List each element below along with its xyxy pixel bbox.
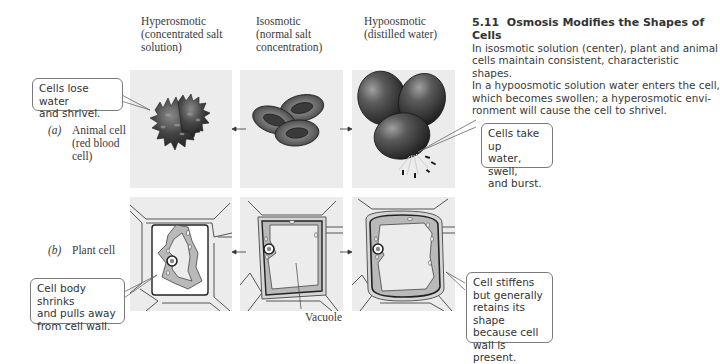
callout-cell-body-shrinks: Cell body shrinks and pulls away from ce… bbox=[30, 278, 125, 324]
callout-cells-shrivel: Cells lose water and shrivel. bbox=[32, 78, 123, 111]
arrow-right-icon bbox=[340, 250, 352, 254]
callout-line: Cell stiffens bbox=[473, 276, 546, 289]
arrow-right-icon bbox=[340, 127, 352, 131]
callout-cell-stiffens: Cell stiffens but generally retains its … bbox=[466, 272, 553, 343]
callout-line: Cells take up bbox=[488, 127, 546, 152]
callout-line: from cell wall. bbox=[37, 320, 118, 333]
callout-line: water, swell, bbox=[488, 152, 546, 177]
callout-line: and burst. bbox=[488, 177, 546, 190]
callout-line: Cells lose water bbox=[39, 82, 116, 107]
callout-line: and pulls away bbox=[37, 307, 118, 320]
callout-cells-burst: Cells take up water, swell, and burst. bbox=[481, 123, 553, 168]
arrow-left-icon bbox=[232, 250, 246, 254]
arrow-left-icon bbox=[232, 127, 246, 131]
callout-line: Cell body shrinks bbox=[37, 282, 118, 307]
callout-line: retains its shape bbox=[473, 301, 546, 326]
callout-line: wall is present. bbox=[473, 339, 546, 364]
callout-line: because cell bbox=[473, 326, 546, 339]
vacuole-label: Vacuole bbox=[305, 311, 342, 324]
callout-line: and shrivel. bbox=[39, 107, 116, 120]
callout-line: but generally bbox=[473, 289, 546, 302]
